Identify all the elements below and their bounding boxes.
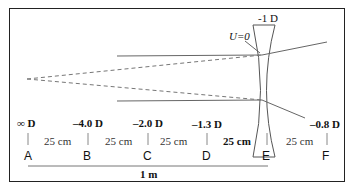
power-label-f: –0.8 D: [310, 119, 340, 130]
distance-cd: 25 cm: [160, 136, 187, 147]
distance-ef: 25 cm: [286, 136, 313, 147]
optics-drawing: [0, 0, 355, 191]
incoming-ray-lower: [117, 100, 262, 101]
incoming-ray-upper: [117, 55, 262, 56]
point-d: D: [202, 150, 211, 162]
point-b: B: [83, 150, 91, 162]
outgoing-ray-upper: [262, 42, 327, 55]
power-label-a: ∞ D: [17, 118, 36, 129]
lens-power-label: -1 D: [258, 13, 278, 24]
u-zero-label: U=0: [229, 31, 250, 42]
power-label-d: –1.3 D: [192, 119, 222, 130]
point-c: C: [143, 150, 152, 162]
u-zero-pointer: [245, 41, 260, 53]
power-label-b: –4.0 D: [73, 118, 103, 129]
power-label-c: –2.0 D: [133, 118, 163, 129]
distance-de: 25 cm: [223, 136, 251, 147]
virtual-ray-upper: [27, 55, 262, 79]
total-span-label: 1 m: [140, 169, 157, 180]
point-e: E: [262, 150, 270, 162]
concave-lens: [253, 25, 275, 157]
point-f: F: [322, 150, 329, 162]
point-a: A: [24, 150, 32, 162]
outgoing-ray-lower: [262, 100, 305, 118]
virtual-ray-lower: [27, 79, 262, 100]
distance-bc: 25 cm: [105, 136, 132, 147]
distance-ab: 25 cm: [44, 136, 71, 147]
